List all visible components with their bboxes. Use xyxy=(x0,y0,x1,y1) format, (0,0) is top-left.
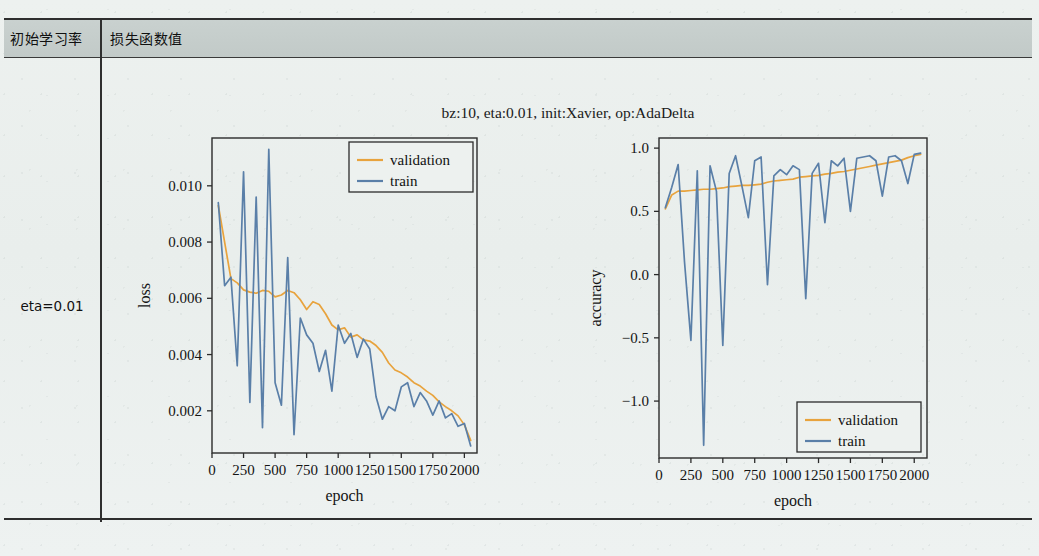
y-tick-label: 0.5 xyxy=(630,203,649,219)
x-tick-label: 1000 xyxy=(323,462,353,478)
legend-label-train: train xyxy=(838,433,866,449)
legend[interactable]: validationtrain xyxy=(349,142,473,192)
results-table: 初始学习率 损失函数值 eta=0.01 bz:10, eta:0.01, in… xyxy=(4,18,1032,520)
x-tick-label: 500 xyxy=(264,462,287,478)
y-tick-label: −0.5 xyxy=(622,330,649,346)
y-axis-label: accuracy xyxy=(587,270,605,327)
legend-label-validation: validation xyxy=(838,412,898,428)
x-tick-label: 500 xyxy=(712,467,735,483)
x-tick-label: 2000 xyxy=(899,467,929,483)
x-tick-label: 2000 xyxy=(449,462,479,478)
y-tick-label: 0.0 xyxy=(630,267,649,283)
x-tick-label: 1750 xyxy=(418,462,448,478)
accuracy-chart: 025050075010001250150017502000epoch−1.0−… xyxy=(587,138,929,510)
x-tick-label: 1250 xyxy=(355,462,385,478)
x-tick-label: 0 xyxy=(655,467,663,483)
loss-chart: 025050075010001250150017502000epoch0.002… xyxy=(136,138,479,505)
y-tick-label: 0.006 xyxy=(168,290,202,306)
legend-label-train: train xyxy=(390,173,418,189)
column-divider xyxy=(100,20,102,522)
y-tick-label: −1.0 xyxy=(622,393,649,409)
header-cell-learning-rate: 初始学习率 xyxy=(10,28,98,48)
x-tick-label: 750 xyxy=(743,467,766,483)
y-tick-label: 1.0 xyxy=(630,140,649,156)
x-axis-label: epoch xyxy=(325,487,363,505)
figure-title: bz:10, eta:0.01, init:Xavier, op:AdaDelt… xyxy=(104,104,1032,122)
x-tick-label: 750 xyxy=(295,462,318,478)
row-label-eta: eta=0.01 xyxy=(4,298,100,314)
x-axis-label: epoch xyxy=(774,492,812,510)
x-tick-label: 1500 xyxy=(835,467,865,483)
y-tick-label: 0.002 xyxy=(168,403,202,419)
x-tick-label: 1000 xyxy=(772,467,802,483)
x-tick-label: 250 xyxy=(680,467,703,483)
series-train xyxy=(218,149,470,446)
x-tick-label: 0 xyxy=(208,462,216,478)
y-axis-label: loss xyxy=(136,283,153,308)
x-tick-label: 250 xyxy=(232,462,255,478)
x-tick-label: 1750 xyxy=(867,467,897,483)
legend-label-validation: validation xyxy=(390,152,450,168)
y-tick-label: 0.004 xyxy=(168,347,202,363)
y-tick-label: 0.010 xyxy=(168,178,202,194)
page-sheet: 初始学习率 损失函数值 eta=0.01 bz:10, eta:0.01, in… xyxy=(0,0,1039,556)
figure-container: bz:10, eta:0.01, init:Xavier, op:AdaDelt… xyxy=(104,60,1032,520)
series-group xyxy=(218,149,470,446)
plots-svg: 025050075010001250150017502000epoch0.002… xyxy=(104,60,1032,520)
y-tick-label: 0.008 xyxy=(168,234,202,250)
x-tick-label: 1250 xyxy=(804,467,834,483)
series-validation xyxy=(218,206,470,441)
header-cell-loss-value: 损失函数值 xyxy=(110,28,183,48)
series-validation xyxy=(665,154,920,208)
x-tick-label: 1500 xyxy=(386,462,416,478)
legend[interactable]: validationtrain xyxy=(797,402,921,452)
